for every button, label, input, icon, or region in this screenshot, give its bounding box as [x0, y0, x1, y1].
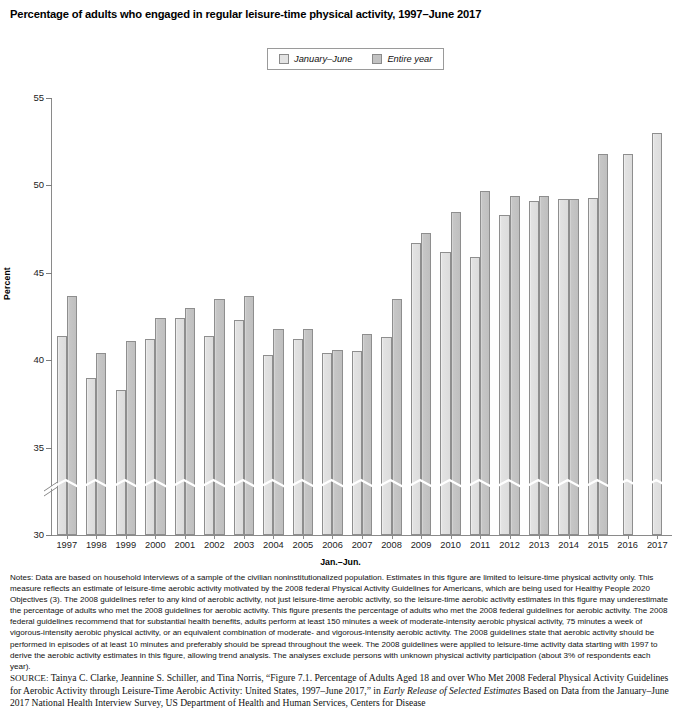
- bar-2010-january-june[interactable]: [440, 252, 450, 535]
- bar-2004-january-june[interactable]: [263, 355, 273, 535]
- x-tick-mark-2016: [628, 535, 629, 539]
- y-tick-label-50: 50: [18, 179, 44, 190]
- bar-2009-january-june[interactable]: [411, 243, 421, 535]
- x-tick-mark-2015: [598, 535, 599, 539]
- x-tick-mark-2008: [392, 535, 393, 539]
- bar-group-2007: [347, 98, 377, 535]
- bar-2012-january-june[interactable]: [499, 215, 509, 535]
- bar-2001-january-june[interactable]: [175, 318, 185, 535]
- chart-plot-area: Percent 303540455055 1997199819992000200…: [0, 0, 681, 560]
- x-tick-mark-2000: [155, 535, 156, 539]
- bar-group-2004: [259, 98, 289, 535]
- bar-series-container: [52, 98, 672, 535]
- bar-1997-entire-year[interactable]: [67, 296, 77, 535]
- bar-2002-entire-year[interactable]: [214, 299, 224, 535]
- x-tick-mark-2013: [539, 535, 540, 539]
- y-axis-title: Percent: [2, 267, 12, 300]
- bar-2012-entire-year[interactable]: [510, 196, 520, 535]
- y-tick-label-40: 40: [18, 354, 44, 365]
- bar-group-2009: [406, 98, 436, 535]
- bar-2010-entire-year[interactable]: [451, 212, 461, 535]
- y-tick-label-55: 55: [18, 92, 44, 103]
- bar-2011-january-june[interactable]: [470, 257, 480, 535]
- bar-2008-january-june[interactable]: [381, 337, 391, 535]
- bar-group-1998: [82, 98, 112, 535]
- y-tick-label-30: 30: [18, 529, 44, 540]
- x-tick-mark-2005: [303, 535, 304, 539]
- source-label: SOURCE:: [10, 673, 48, 683]
- bar-group-2014: [554, 98, 584, 535]
- bar-group-2002: [200, 98, 230, 535]
- bar-group-2011: [465, 98, 495, 535]
- x-axis-title: Jan.–Jun.: [0, 557, 681, 567]
- bar-group-2005: [288, 98, 318, 535]
- bar-group-2012: [495, 98, 525, 535]
- bar-group-1999: [111, 98, 141, 535]
- bar-2000-january-june[interactable]: [145, 339, 155, 535]
- x-tick-mark-2011: [480, 535, 481, 539]
- y-tick-label-35: 35: [18, 442, 44, 453]
- x-tick-mark-2007: [362, 535, 363, 539]
- bar-2015-january-june[interactable]: [588, 198, 598, 535]
- x-tick-mark-2017: [657, 535, 658, 539]
- x-tick-mark-2002: [214, 535, 215, 539]
- bar-2000-entire-year[interactable]: [155, 318, 165, 535]
- bar-group-2006: [318, 98, 348, 535]
- bar-group-2000: [141, 98, 171, 535]
- bar-2003-entire-year[interactable]: [244, 296, 254, 535]
- y-tick-mark-30: [46, 535, 52, 536]
- bar-1997-january-june[interactable]: [57, 336, 67, 535]
- bar-1998-january-june[interactable]: [86, 378, 96, 535]
- bar-2001-entire-year[interactable]: [185, 308, 195, 535]
- bar-2015-entire-year[interactable]: [598, 154, 608, 535]
- x-tick-mark-1999: [126, 535, 127, 539]
- bar-2008-entire-year[interactable]: [392, 299, 402, 535]
- x-tick-mark-2009: [421, 535, 422, 539]
- figure-source: SOURCE: Tainya C. Clarke, Jeannine S. Sc…: [10, 672, 672, 710]
- bar-1999-january-june[interactable]: [116, 390, 126, 535]
- bar-2013-entire-year[interactable]: [539, 196, 549, 535]
- bar-group-2017: [642, 98, 672, 535]
- bar-2006-january-june[interactable]: [322, 353, 332, 535]
- x-tick-mark-2003: [244, 535, 245, 539]
- bar-group-2001: [170, 98, 200, 535]
- bar-2014-entire-year[interactable]: [569, 199, 579, 535]
- bar-2007-january-june[interactable]: [352, 351, 362, 535]
- bar-group-2013: [524, 98, 554, 535]
- bar-group-2015: [583, 98, 613, 535]
- bar-group-2016: [613, 98, 643, 535]
- x-tick-mark-2012: [510, 535, 511, 539]
- bar-2011-entire-year[interactable]: [480, 191, 490, 535]
- figure-notes: Notes: Data are based on household inter…: [10, 572, 672, 672]
- bar-2005-entire-year[interactable]: [303, 329, 313, 535]
- bar-group-1997: [52, 98, 82, 535]
- x-tick-mark-1997: [67, 535, 68, 539]
- x-tick-mark-2006: [332, 535, 333, 539]
- bar-group-2010: [436, 98, 466, 535]
- bar-1998-entire-year[interactable]: [96, 353, 106, 535]
- x-tick-mark-2014: [569, 535, 570, 539]
- x-tick-mark-1998: [96, 535, 97, 539]
- bar-2002-january-june[interactable]: [204, 336, 214, 535]
- x-tick-mark-2004: [273, 535, 274, 539]
- bar-1999-entire-year[interactable]: [126, 341, 136, 535]
- bar-2005-january-june[interactable]: [293, 339, 303, 535]
- x-tick-mark-2001: [185, 535, 186, 539]
- y-tick-label-45: 45: [18, 267, 44, 278]
- bar-2014-january-june[interactable]: [558, 199, 568, 535]
- bar-group-2003: [229, 98, 259, 535]
- bar-2006-entire-year[interactable]: [332, 350, 342, 535]
- source-italic-title: Early Release of Selected Estimates: [383, 685, 520, 696]
- bar-2013-january-june[interactable]: [529, 201, 539, 535]
- bar-2003-january-june[interactable]: [234, 320, 244, 535]
- bar-2007-entire-year[interactable]: [362, 334, 372, 535]
- x-tick-label-2017: 2017: [640, 540, 674, 550]
- bar-2016-january-june[interactable]: [623, 154, 633, 535]
- x-tick-mark-2010: [451, 535, 452, 539]
- bar-2009-entire-year[interactable]: [421, 233, 431, 535]
- bar-2017-january-june[interactable]: [652, 133, 662, 535]
- bar-2004-entire-year[interactable]: [273, 329, 283, 535]
- bar-group-2008: [377, 98, 407, 535]
